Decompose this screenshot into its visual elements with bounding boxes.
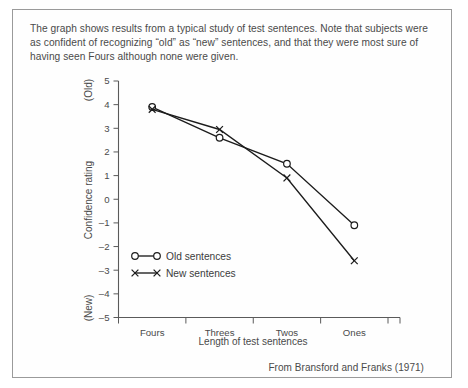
source-note: From Bransford and Franks (1971) xyxy=(268,362,424,373)
figure-frame: The graph shows results from a typical s… xyxy=(12,9,452,378)
caption-text: The graph shows results from a typical s… xyxy=(30,22,438,65)
figure-caption: The graph shows results from a typical s… xyxy=(30,22,438,65)
